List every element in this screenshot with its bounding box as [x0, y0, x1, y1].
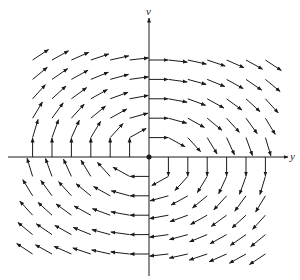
field-arrow: [111, 252, 130, 254]
field-arrow: [130, 58, 149, 60]
field-arrow: [246, 138, 253, 156]
field-arrow: [110, 109, 127, 118]
field-arrow: [73, 227, 91, 234]
field-arrow: [110, 74, 128, 79]
field-arrow: [113, 167, 130, 176]
field-arrow: [33, 119, 39, 137]
field-arrow: [71, 70, 88, 79]
field-arrow: [130, 128, 147, 137]
field-arrow: [246, 99, 260, 112]
field-arrow: [246, 118, 257, 133]
field-arrow: [235, 196, 246, 211]
field-arrow: [64, 159, 72, 176]
field-arrow: [227, 79, 244, 88]
field-arrow: [56, 204, 71, 215]
field-arrow: [150, 235, 169, 238]
field-arrow: [207, 60, 225, 66]
field-arrow: [111, 232, 130, 235]
field-arrow: [92, 209, 110, 216]
field-arrow: [229, 254, 246, 263]
field-arrow: [110, 92, 128, 99]
field-arrow: [18, 223, 33, 235]
field-arrow: [23, 180, 33, 196]
field-arrow: [170, 235, 188, 240]
field-arrow: [150, 215, 169, 218]
field-arrow: [27, 158, 32, 176]
field-arrow: [150, 196, 168, 201]
field-arrow: [110, 56, 129, 60]
horizontal-axis-label: y: [290, 150, 295, 162]
field-arrow: [169, 254, 188, 258]
field-arrow: [111, 191, 129, 196]
field-arrow: [97, 162, 110, 176]
field-arrow: [17, 244, 33, 255]
field-arrow: [207, 118, 222, 130]
field-arrow: [52, 120, 59, 138]
equilibrium-point: [147, 155, 152, 160]
field-arrow: [265, 99, 278, 113]
field-arrow: [188, 118, 205, 127]
field-arrow: [92, 230, 110, 235]
field-arrow: [71, 88, 86, 99]
field-arrow: [227, 118, 240, 132]
field-arrow: [250, 254, 266, 265]
field-arrow: [111, 212, 130, 215]
vertical-axis-label: v: [146, 5, 151, 17]
vector-field-plot: [0, 0, 300, 280]
field-arrow: [170, 215, 188, 222]
field-arrow: [175, 176, 188, 190]
field-arrow: [168, 118, 186, 123]
field-arrow: [209, 254, 226, 262]
field-arrow: [207, 99, 224, 108]
field-arrow: [168, 138, 185, 147]
field-arrow: [33, 50, 49, 61]
field-arrow: [33, 67, 48, 79]
field-arrow: [54, 246, 71, 254]
field-arrow: [227, 99, 242, 110]
field-arrow: [35, 245, 52, 254]
field-arrow: [20, 201, 33, 215]
field-arrow: [71, 52, 88, 60]
field-arrow: [55, 225, 72, 234]
field-arrow: [81, 160, 91, 176]
field-arrow: [52, 51, 69, 60]
field-arrow: [246, 60, 263, 69]
field-arrow: [189, 254, 207, 260]
field-arrow: [73, 248, 91, 254]
field-arrow: [91, 90, 108, 99]
field-arrow: [130, 77, 149, 80]
field-arrow: [260, 176, 266, 194]
field-arrow: [227, 138, 235, 155]
field-arrow: [265, 118, 275, 134]
field-arrow: [246, 79, 262, 90]
field-arrow: [265, 60, 281, 71]
field-arrow: [188, 79, 206, 84]
field-arrow: [188, 60, 207, 64]
field-arrow: [207, 138, 217, 154]
field-arrow: [265, 138, 271, 156]
field-arrow: [130, 95, 149, 98]
field-arrow: [197, 176, 207, 192]
field-arrow: [168, 79, 187, 82]
field-arrow: [251, 235, 266, 247]
field-arrow: [91, 121, 101, 137]
field-arrow: [52, 69, 68, 80]
field-arrow: [227, 60, 244, 68]
field-arrow: [168, 60, 187, 62]
field-arrow: [214, 196, 227, 210]
field-arrow: [74, 206, 91, 215]
field-arrow: [232, 215, 246, 228]
field-arrow: [71, 120, 79, 137]
field-arrow: [33, 102, 43, 118]
field-arrow: [207, 79, 225, 86]
field-arrow: [91, 106, 106, 118]
field-arrow: [52, 103, 63, 118]
field-arrow: [110, 124, 123, 138]
field-arrow: [191, 215, 208, 224]
field-arrow: [130, 113, 148, 118]
field-arrow: [52, 86, 66, 99]
field-arrow: [256, 196, 266, 212]
field-arrow: [171, 196, 188, 205]
field-arrow: [150, 254, 169, 256]
field-arrow: [210, 235, 227, 244]
